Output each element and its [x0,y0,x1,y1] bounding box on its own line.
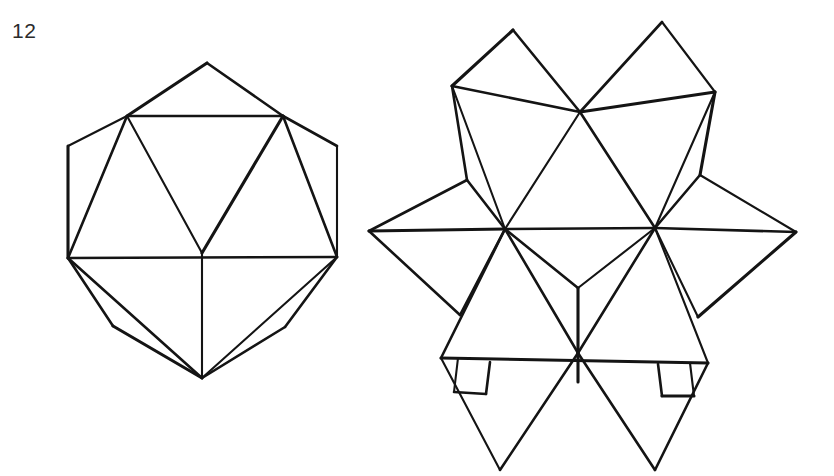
stellation-edge [658,364,662,396]
stellated-icosahedron-drawing [369,22,796,470]
icosahedron-edge [68,116,127,258]
icosahedron-edge [127,63,207,116]
stellation-edge [578,353,655,470]
stellation-edge [655,228,796,232]
stellation-edge [505,112,580,229]
icosahedron-edge [68,258,113,326]
stellation-edge [452,86,467,180]
stellation-edge [655,92,715,228]
icosahedron-edge [68,257,337,258]
stellation-edge [467,180,505,229]
icosahedron-edge [68,116,127,146]
polyhedra-line-drawing [0,0,834,476]
stellation-edge [454,392,486,394]
icosahedron-edge [202,116,283,253]
stellation-edge [690,363,694,396]
icosahedron-edge [283,116,337,257]
icosahedron-edge [127,116,202,253]
stellation-edge [655,228,708,363]
stellation-edge [580,112,655,228]
stellation-edge [441,358,708,363]
figure-page: 12 [0,0,834,476]
stellation-edge [580,92,715,112]
stellation-edge [578,228,655,353]
stellation-edge [580,22,662,112]
icosahedron-edge [113,326,202,378]
stellation-edge [452,30,513,86]
stellation-edge [486,362,490,394]
stellation-edge [454,358,458,392]
stellation-edge [513,30,580,112]
figure-number-label: 12 [12,20,36,41]
stellation-edge [700,92,715,175]
stellation-edge [655,228,698,317]
stellation-edge [698,232,796,317]
icosahedron-edge [207,63,283,116]
stellation-edge [662,22,715,92]
icosahedron-edge [68,258,202,378]
stellation-edge [369,229,505,231]
icosahedron-edge [202,257,337,378]
icosahedron-drawing [68,63,337,378]
icosahedron-edge [283,116,337,146]
icosahedron-edge [202,327,285,378]
stellation-edge [655,175,700,228]
stellation-edge [700,175,796,232]
stellation-edge [369,180,467,231]
stellation-edge [505,228,655,229]
icosahedron-edge [285,257,337,327]
stellation-edge [441,358,500,470]
stellation-edge [505,229,578,288]
stellation-edge [500,353,578,470]
stellation-edge [369,231,460,315]
stellation-edge [452,86,505,229]
stellation-edge [441,229,505,358]
stellation-edge [655,363,708,470]
stellation-edge [505,229,578,353]
stellation-edge [460,229,505,315]
stellation-edge [452,86,580,112]
stellation-edge [578,228,655,288]
